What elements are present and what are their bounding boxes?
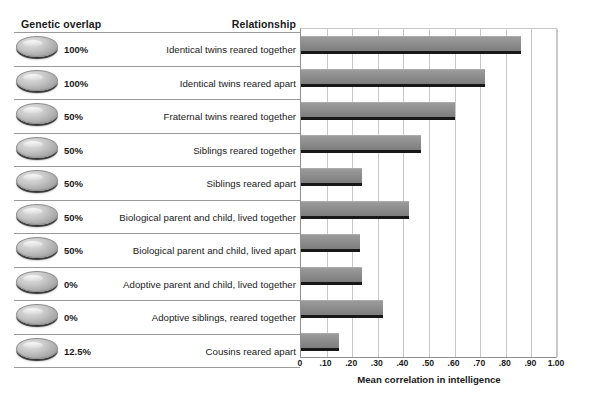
relationship-label: Identical twins reared together — [166, 44, 296, 55]
figure-root: Genetic overlap Relationship 100%Identic… — [0, 0, 590, 405]
bar — [301, 69, 485, 84]
bar-row — [301, 161, 558, 194]
genetic-overlap-chip-icon — [16, 170, 60, 196]
relationship-label: Cousins reared apart — [206, 345, 296, 356]
x-tick-label: .40 — [396, 358, 408, 368]
genetic-overlap-chip-icon — [16, 36, 60, 62]
x-tick-label: .50 — [422, 358, 434, 368]
header-genetic-overlap: Genetic overlap — [21, 18, 101, 30]
x-tick-label: .20 — [345, 358, 357, 368]
relationship-label: Biological parent and child, lived apart — [133, 245, 296, 256]
bar — [301, 135, 421, 150]
genetic-overlap-chip-icon — [16, 204, 60, 230]
relationship-label: Identical twins reared apart — [180, 77, 296, 88]
bar-row — [301, 326, 558, 359]
bar — [301, 333, 339, 348]
table-row: 50%Siblings reared apart — [14, 166, 300, 200]
relationship-label: Fraternal twins reared together — [164, 111, 296, 122]
x-tick-label: .60 — [448, 358, 460, 368]
genetic-overlap-table: Genetic overlap Relationship 100%Identic… — [14, 8, 300, 358]
table-row: 0%Adoptive siblings, reared together — [14, 300, 300, 334]
genetic-overlap-value: 50% — [64, 178, 83, 189]
bar-row — [301, 194, 558, 227]
x-tick-label: .70 — [473, 358, 485, 368]
bar — [301, 102, 455, 117]
genetic-overlap-chip-icon — [16, 137, 60, 163]
table-row: 12.5%Cousins reared apart — [14, 334, 300, 369]
genetic-overlap-chip-icon — [16, 271, 60, 297]
x-tick-label: .80 — [499, 358, 511, 368]
bar-row — [301, 260, 558, 293]
genetic-overlap-chip-icon — [16, 103, 60, 129]
table-row: 50%Biological parent and child, lived to… — [14, 200, 300, 234]
genetic-overlap-value: 100% — [64, 77, 88, 88]
table-row: 100%Identical twins reared together — [14, 32, 300, 66]
table-row: 50%Fraternal twins reared together — [14, 99, 300, 133]
genetic-overlap-chip-icon — [16, 70, 60, 96]
x-tick-label: 1.00 — [548, 358, 565, 368]
genetic-overlap-value: 50% — [64, 245, 83, 256]
bar-row — [301, 128, 558, 161]
bar — [301, 234, 360, 249]
x-tick-label: .10 — [320, 358, 332, 368]
bar-chart — [300, 8, 558, 358]
table-body: 100%Identical twins reared together100%I… — [14, 32, 300, 368]
genetic-overlap-value: 0% — [64, 278, 78, 289]
x-tick-label: 0 — [298, 358, 303, 368]
bar-row — [301, 29, 558, 62]
header-relationship: Relationship — [232, 18, 296, 30]
plot-area — [300, 28, 557, 358]
genetic-overlap-chip-icon — [16, 304, 60, 330]
bar — [301, 201, 409, 216]
relationship-label: Biological parent and child, lived toget… — [119, 211, 296, 222]
relationship-label: Siblings reared together — [193, 144, 296, 155]
relationship-label: Adoptive siblings, reared together — [152, 312, 296, 323]
x-axis-ticks: 0.10.20.30.40.50.60.70.80.901.00 — [300, 358, 562, 372]
genetic-overlap-value: 12.5% — [64, 345, 91, 356]
bar-row — [301, 62, 558, 95]
bar — [301, 168, 362, 183]
x-axis-label: Mean correlation in intelligence — [300, 374, 558, 385]
bar-row — [301, 227, 558, 260]
bar — [301, 300, 383, 315]
bar — [301, 36, 521, 51]
x-tick-label: .30 — [371, 358, 383, 368]
table-row: 0%Adoptive parent and child, lived toget… — [14, 267, 300, 301]
genetic-overlap-value: 0% — [64, 312, 78, 323]
bar — [301, 267, 362, 282]
table-row: 50%Siblings reared together — [14, 133, 300, 167]
genetic-overlap-value: 100% — [64, 44, 88, 55]
relationship-label: Siblings reared apart — [207, 178, 296, 189]
genetic-overlap-value: 50% — [64, 211, 83, 222]
x-tick-label: .90 — [524, 358, 536, 368]
relationship-label: Adoptive parent and child, lived togethe… — [123, 278, 296, 289]
genetic-overlap-value: 50% — [64, 144, 83, 155]
table-row: 100%Identical twins reared apart — [14, 66, 300, 100]
genetic-overlap-chip-icon — [16, 338, 60, 364]
bar-row — [301, 95, 558, 128]
bar-row — [301, 293, 558, 326]
genetic-overlap-chip-icon — [16, 237, 60, 263]
genetic-overlap-value: 50% — [64, 111, 83, 122]
table-header-row: Genetic overlap Relationship — [14, 8, 300, 32]
table-row: 50%Biological parent and child, lived ap… — [14, 233, 300, 267]
